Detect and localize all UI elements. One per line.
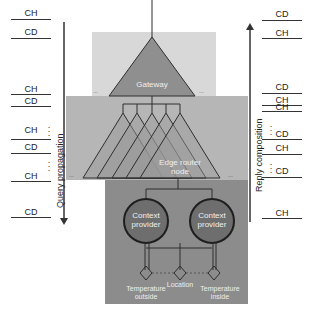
left-message-7: CD xyxy=(11,207,51,217)
right-message-0-line xyxy=(262,20,302,21)
context-provider-1-line2: provider xyxy=(121,220,171,229)
right-message-5-line xyxy=(262,139,302,140)
right-message-8-line xyxy=(262,218,302,219)
sensor-temperature-inside-icon xyxy=(208,266,220,280)
right-message-2-line xyxy=(262,93,302,94)
right-message-6: CH xyxy=(262,143,302,153)
left-message-3-line xyxy=(11,106,51,107)
right-message-6-line xyxy=(262,154,302,155)
right-message-4-line xyxy=(262,111,302,112)
left-message-1-line xyxy=(11,38,51,39)
context-provider-2-line2: provider xyxy=(187,220,237,229)
left-message-2: CH xyxy=(11,84,51,94)
query-propagation-label: Query propagation xyxy=(55,133,65,208)
sensor-temperature-inside-label: Temperature inside xyxy=(188,285,252,301)
left-message-3: CD xyxy=(11,96,51,106)
right-message-2: CD xyxy=(262,82,302,92)
right-message-5: CD xyxy=(262,129,302,139)
left-message-4-line xyxy=(11,139,51,140)
query-arrowhead-icon xyxy=(60,218,68,225)
ellipsis-router-right: ... xyxy=(228,172,233,178)
right-message-1: CH xyxy=(262,28,302,38)
left-message-5-line xyxy=(11,153,51,154)
ellipsis-router-left: ... xyxy=(69,172,74,178)
ellipsis-gateway-right: ... xyxy=(199,88,204,94)
left-message-5: CD xyxy=(11,142,51,152)
right-message-0: CD xyxy=(262,9,302,19)
sensor-temperature-outside-icon xyxy=(140,266,152,280)
left-message-6-line xyxy=(11,181,51,182)
left-message-7-line xyxy=(11,217,51,218)
left-message-6: CH xyxy=(11,171,51,181)
left-message-4: CH xyxy=(11,125,51,135)
left-message-2-line xyxy=(11,94,51,95)
right-message-7: CD xyxy=(262,166,302,176)
context-provider-2-line1: Context xyxy=(187,211,237,220)
right-message-7-line xyxy=(262,177,302,178)
right-message-8: CH xyxy=(262,208,302,218)
edge-router-label-line2: node xyxy=(150,167,210,176)
context-provider-1-line1: Context xyxy=(121,211,171,220)
right-message-1-line xyxy=(262,38,302,39)
left-ellipsis-1: ··· xyxy=(46,125,52,137)
ellipsis-gateway-left: ... xyxy=(93,88,98,94)
left-message-0-line xyxy=(11,19,51,20)
left-message-0: CH xyxy=(11,8,51,18)
gateway-label: Gateway xyxy=(122,80,182,89)
left-message-1: CD xyxy=(11,27,51,37)
reply-arrowhead-icon xyxy=(246,23,254,30)
edge-router-label-line1: Edge router xyxy=(150,158,210,167)
